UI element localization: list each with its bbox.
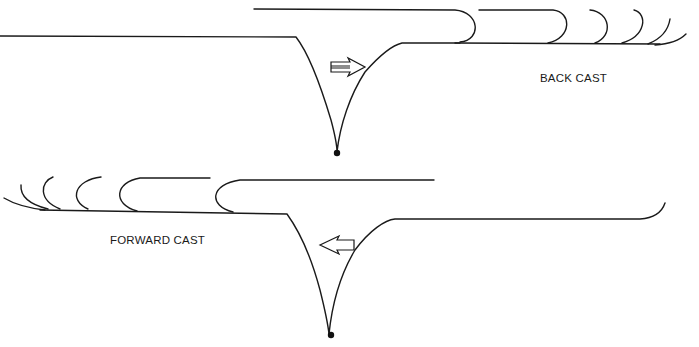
back-cast-rod-path xyxy=(0,36,460,152)
back-cast-loop-4 xyxy=(622,10,643,43)
left-hollow-arrow-icon xyxy=(320,236,354,254)
back-cast-loop-2 xyxy=(479,10,567,43)
forward-cast-label: FORWARD CAST xyxy=(110,234,205,246)
forward-cast-loop-1 xyxy=(216,180,434,212)
forward-cast-rod-tip xyxy=(328,332,334,338)
back-cast-loop-3 xyxy=(590,10,607,43)
forward-cast-loop-2 xyxy=(120,178,210,211)
back-cast-rod-tip xyxy=(334,150,340,156)
back-cast-loop-5 xyxy=(648,19,670,44)
back-cast-label: BACK CAST xyxy=(540,72,607,84)
right-hollow-arrow-icon xyxy=(331,58,365,76)
back-cast-lower-leg xyxy=(455,43,660,44)
forward-cast-rod-path xyxy=(40,203,665,334)
casting-diagram xyxy=(0,0,699,347)
forward-cast-panel xyxy=(4,177,665,338)
forward-cast-loop-3 xyxy=(76,177,101,209)
forward-cast-loop-6 xyxy=(4,198,45,210)
forward-cast-loop-4 xyxy=(43,177,60,209)
